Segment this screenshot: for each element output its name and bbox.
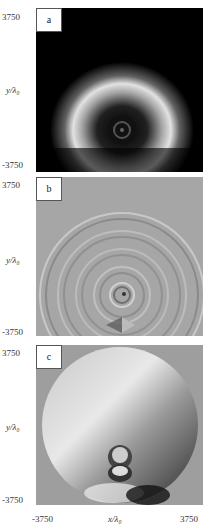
x-tick-max: 3750 — [180, 514, 198, 524]
panel-c-phase: c — [36, 345, 203, 505]
x-axis-label: x/λ₀ — [108, 514, 122, 524]
panel-label-b: b — [36, 177, 62, 201]
y-tick-bottom-a: -3750 — [2, 160, 23, 170]
x-tick-min: -3750 — [32, 514, 53, 524]
intensity-ring-image — [36, 8, 203, 172]
y-axis-label-a: y/λ₀ — [6, 85, 20, 95]
y-axis-label-c: y/λ₀ — [6, 422, 20, 432]
panel-label-c: c — [36, 345, 62, 369]
y-tick-bottom-c: -3750 — [2, 495, 23, 505]
panel-b-fringes: b — [36, 177, 203, 336]
y-tick-bottom-b: -3750 — [2, 327, 23, 337]
y-axis-label-b: y/λ₀ — [6, 255, 20, 265]
y-tick-top-b: 3750 — [2, 180, 20, 190]
y-tick-top-c: 3750 — [2, 348, 20, 358]
panel-a-intensity: a — [36, 8, 203, 172]
y-tick-top-a: 3750 — [2, 12, 20, 22]
phase-map-image — [36, 345, 203, 505]
panel-label-a: a — [36, 8, 62, 32]
